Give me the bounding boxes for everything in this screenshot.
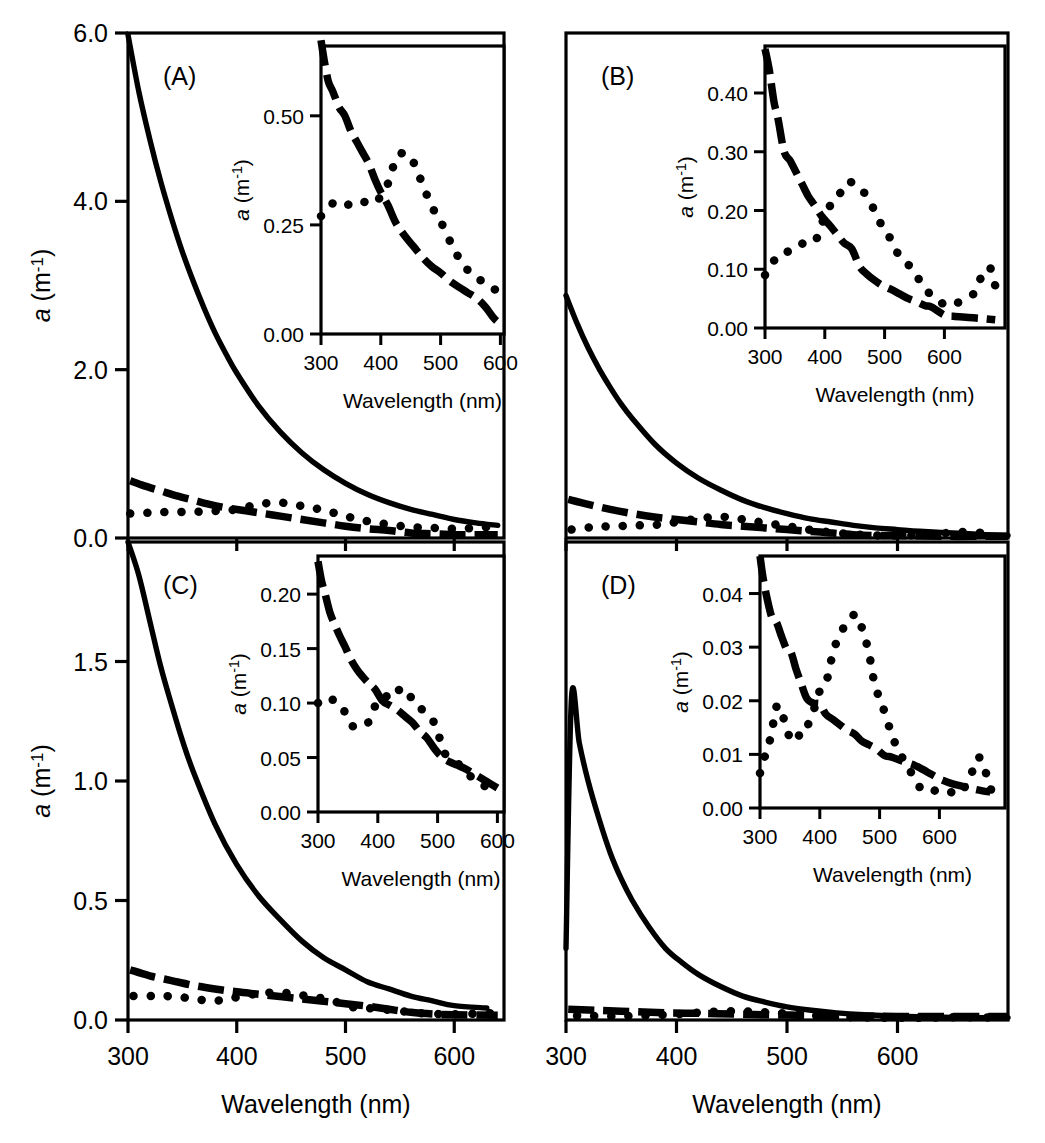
panel-D-label: (D) [601,571,636,599]
multi-panel-absorption-figure: 0.02.04.06.0a (m-1)(A)(B)0.00.51.01.5300… [0,0,1045,1143]
panel-C-inset-xtick-label: 400 [360,829,395,852]
panel-A-inset-xtick-label: 400 [363,351,398,374]
panel-B-inset-ytick-label: 0.30 [707,141,748,164]
panel-B-inset-xtick-label: 500 [867,345,902,368]
panel-A-ytick-label: 4.0 [73,187,108,215]
panel-D-inset-x-axis-title: Wavelength (nm) [813,863,972,886]
panel-A-inset-ytick-label: 0.00 [263,323,304,346]
y-axis-label-paren: ) [27,744,55,752]
panel-B-label: (B) [601,62,634,90]
panel-A-inset-ytick-label: 0.50 [263,105,304,128]
y-axis-label-exponent: -1 [229,166,245,179]
y-axis-label-symbol: a [27,308,55,322]
panel-C-inset-x-axis-title: Wavelength (nm) [341,867,500,890]
panel-C-ytick-label: 1.5 [73,648,108,676]
panel-D-inset-ytick-label: 0.00 [702,797,743,820]
panel-C-xtick-label: 500 [325,1042,367,1070]
y-axis-label-symbol: a [230,209,253,221]
panel-C-inset-background [317,555,505,813]
panel-C-xtick-label: 300 [107,1042,149,1070]
panel-C-inset-ytick-label: 0.10 [260,692,301,715]
y-axis-label-paren: ) [230,159,253,166]
panel-D-inset-ytick-label: 0.02 [702,690,743,713]
panel-B-inset-xtick-label: 400 [807,345,842,368]
y-axis-label-paren: ) [27,249,55,257]
panel-C-label: (C) [163,571,198,599]
figure-container: 0.02.04.06.0a (m-1)(A)(B)0.00.51.01.5300… [0,0,1045,1143]
y-axis-label-paren: ) [669,651,692,658]
y-axis-label-paren: ) [227,653,250,660]
panel-D-main-particulate-total [568,1009,1008,1016]
panel-C-inset-xtick-label: 600 [480,829,515,852]
panel-C-ytick-label: 1.0 [73,767,108,795]
y-axis-label-symbol: a [27,804,55,818]
panel-A-inset-xtick-label: 600 [483,351,518,374]
y-axis-label-symbol: a [669,701,692,713]
y-axis-label-exponent: -1 [28,257,47,272]
panel-B-inset-xtick-label: 300 [747,345,782,368]
panel-C-xtick-label: 400 [216,1042,258,1070]
y-axis-label-exponent: -1 [28,753,47,768]
panel-C-inset-ytick-label: 0.20 [260,583,301,606]
panel-A-ytick-label: 2.0 [73,356,108,384]
panel-B-inset-x-axis-title: Wavelength (nm) [815,383,974,406]
panel-A-ytick-label: 0.0 [73,524,108,552]
panel-A-inset-background [320,45,505,335]
panel-D-inset-xtick-label: 300 [742,825,777,848]
y-axis-label-exponent: -1 [668,658,684,671]
panel-C-y-axis-title: a (m-1) [27,744,55,817]
panel-C-inset-ytick-label: 0.05 [260,747,301,770]
panel-A-y-axis-title: a (m-1) [27,249,55,322]
y-axis-label-units: (m [27,272,55,308]
panel-B-inset-ytick-label: 0.10 [707,258,748,281]
panel-D-inset-xtick-label: 600 [922,825,957,848]
panel-B-inset-ytick-label: 0.40 [707,82,748,105]
panel-C-main-particulate-total [130,970,498,1015]
panel-D-inset-xtick-label: 500 [862,825,897,848]
y-axis-label-symbol: a [227,703,250,715]
panel-C-inset-xtick-label: 300 [300,829,335,852]
panel-B-inset-y-axis-title: a (m-1) [673,156,697,218]
y-axis-label-exponent: -1 [673,163,689,176]
panel-C-xtick-label: 600 [433,1042,475,1070]
panel-D-inset-ytick-label: 0.03 [702,636,743,659]
panel-B-inset-ytick-label: 0.00 [707,317,748,340]
panel-D-inset-y-axis-title: a (m-1) [668,651,692,713]
panel-A-label: (A) [163,62,196,90]
panel-B-inset-xtick-label: 600 [927,345,962,368]
panel-C-x-axis-title: Wavelength (nm) [221,1090,410,1118]
panel-C-ytick-label: 0.0 [73,1006,108,1034]
y-axis-label-units: (m [674,176,697,206]
y-axis-label-units: (m [227,673,250,703]
panel-C-ytick-label: 0.5 [73,887,108,915]
y-axis-label-units: (m [230,179,253,209]
panel-B-inset-ytick-label: 0.20 [707,200,748,223]
panel-B-main-cdom-exponential [566,296,1008,536]
panel-C-inset-ytick-label: 0.00 [260,801,301,824]
panel-C-inset-xtick-label: 500 [420,829,455,852]
panel-A-inset-xtick-label: 300 [303,351,338,374]
panel-A-inset-ytick-label: 0.25 [263,214,304,237]
y-axis-label-exponent: -1 [226,660,242,673]
panel-D-inset-ytick-label: 0.04 [702,583,743,606]
panel-C-inset-ytick-label: 0.15 [260,638,301,661]
panel-A-inset-xtick-label: 500 [423,351,458,374]
panel-D-x-axis-title: Wavelength (nm) [692,1090,881,1118]
y-axis-label-units: (m [27,768,55,804]
panel-C-inset-y-axis-title: a (m-1) [226,653,250,715]
panel-D-xtick-label: 300 [545,1042,587,1070]
y-axis-label-units: (m [669,671,692,701]
panel-D-xtick-label: 600 [877,1042,919,1070]
y-axis-label-paren: ) [674,156,697,163]
panel-D-xtick-label: 500 [766,1042,808,1070]
panel-D-inset-ytick-label: 0.01 [702,743,743,766]
panel-A-inset-y-axis-title: a (m-1) [229,159,253,221]
panel-A-ytick-label: 6.0 [73,19,108,47]
panel-D-xtick-label: 400 [656,1042,698,1070]
panel-D-inset-xtick-label: 400 [802,825,837,848]
y-axis-label-symbol: a [674,206,697,218]
panel-A-inset-x-axis-title: Wavelength (nm) [343,389,502,412]
